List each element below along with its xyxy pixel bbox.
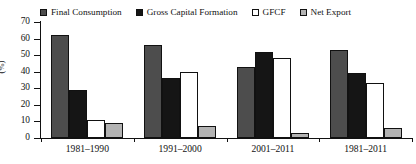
bar-gfcf <box>87 120 105 138</box>
y-axis-tick <box>34 22 40 23</box>
bar-gfcf <box>366 83 384 138</box>
bar-group-inner <box>330 22 402 138</box>
bar-group-inner <box>51 22 123 138</box>
bar-group <box>227 22 320 138</box>
bar-group <box>319 22 412 138</box>
y-axis-tick-label: 30 <box>0 84 30 93</box>
y-axis-tick-label: 60 <box>0 34 30 43</box>
x-axis-tick-label: 2001–2011 <box>251 144 294 155</box>
legend-label-net-export: Net Export <box>311 8 352 17</box>
y-axis-tick-label: 40 <box>0 67 30 76</box>
bar-net-export <box>198 126 216 138</box>
y-axis-tick <box>34 39 40 40</box>
bar-group-inner <box>237 22 309 138</box>
x-axis-tick <box>41 138 42 142</box>
legend-item-final-consumption: Final Consumption <box>40 8 122 17</box>
bar-group <box>41 22 134 138</box>
y-axis-tick <box>34 138 40 139</box>
legend-swatch-final-consumption <box>40 9 47 16</box>
bar-final-consumption <box>237 67 255 138</box>
x-axis-tick-label: 1981–1990 <box>66 144 109 155</box>
y-axis-tick <box>34 105 40 106</box>
bar-net-export <box>384 128 402 138</box>
bar-chart: Final Consumption Gross Capital Formatio… <box>0 0 416 164</box>
x-axis-tick-label: 1991–2000 <box>159 144 202 155</box>
bar-gfcf <box>180 72 198 138</box>
y-axis-tick-label: 20 <box>0 100 30 109</box>
legend-label-gfcf: GFCF <box>263 8 286 17</box>
y-axis-tick-label: 50 <box>0 50 30 59</box>
bar-group-inner <box>144 22 216 138</box>
legend-item-gross-capital-formation: Gross Capital Formation <box>136 8 238 17</box>
bar-final-consumption <box>330 50 348 138</box>
bar-gfcf <box>273 58 291 138</box>
bar-net-export <box>291 133 309 138</box>
x-axis-tick <box>319 138 320 142</box>
y-axis-tick-label: 70 <box>0 17 30 26</box>
chart-legend: Final Consumption Gross Capital Formatio… <box>40 5 412 21</box>
y-axis-tick-label: 10 <box>0 117 30 126</box>
y-axis-tick-label: 0 <box>0 133 30 142</box>
y-axis-tick <box>34 55 40 56</box>
bar-gross-capital-formation <box>348 73 366 138</box>
y-axis-tick <box>34 72 40 73</box>
legend-swatch-gross-capital-formation <box>136 9 143 16</box>
bar-net-export <box>105 123 123 138</box>
bar-final-consumption <box>144 45 162 138</box>
x-axis-tick <box>412 138 413 142</box>
bar-final-consumption <box>51 35 69 138</box>
bar-group <box>134 22 227 138</box>
legend-item-gfcf: GFCF <box>252 8 286 17</box>
x-axis-tick-label: 1981–2011 <box>344 144 387 155</box>
x-axis-tick <box>134 138 135 142</box>
y-axis-tick <box>34 121 40 122</box>
legend-swatch-net-export <box>300 9 307 16</box>
legend-item-net-export: Net Export <box>300 8 352 17</box>
legend-swatch-gfcf <box>252 9 259 16</box>
y-axis-tick <box>34 88 40 89</box>
x-axis-tick <box>227 138 228 142</box>
bar-gross-capital-formation <box>255 52 273 138</box>
bar-gross-capital-formation <box>69 90 87 138</box>
bar-groups <box>41 22 412 138</box>
legend-label-final-consumption: Final Consumption <box>51 8 122 17</box>
legend-label-gross-capital-formation: Gross Capital Formation <box>147 8 238 17</box>
bar-gross-capital-formation <box>162 78 180 138</box>
